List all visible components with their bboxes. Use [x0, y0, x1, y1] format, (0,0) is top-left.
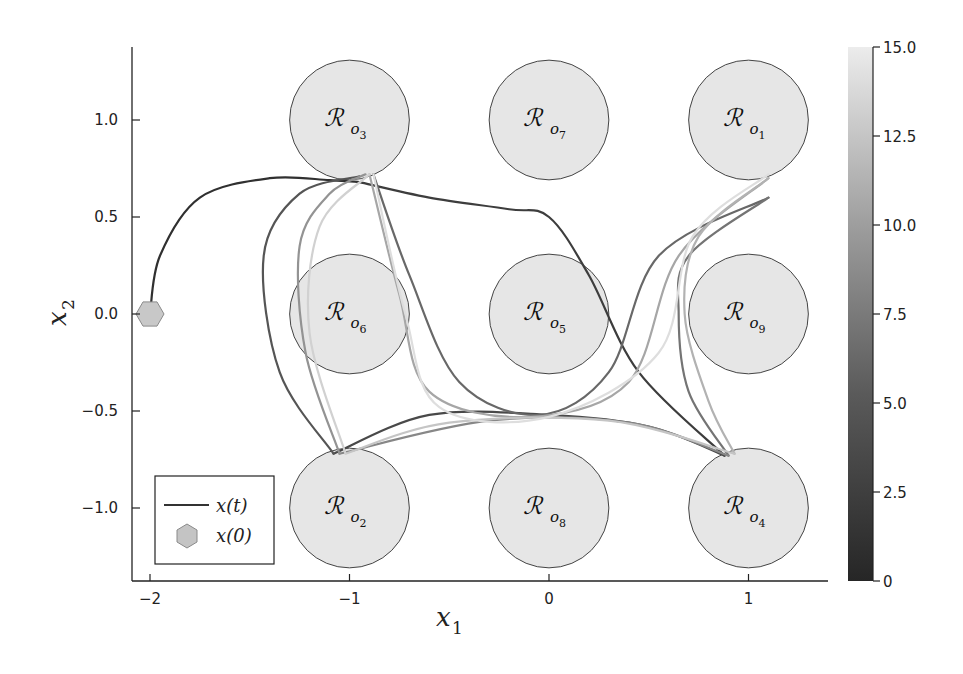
svg-text:o: o [750, 120, 759, 138]
svg-text:o: o [351, 508, 360, 526]
colorbar-tick-label: 7.5 [883, 306, 907, 324]
svg-text:ℛ: ℛ [324, 298, 345, 326]
svg-text:ℛ: ℛ [723, 298, 744, 326]
trajectories-layer [150, 174, 768, 455]
regions-layer: ℛo1ℛo2ℛo3ℛo4ℛo5ℛo6ℛo7ℛo8ℛo9 [290, 60, 809, 568]
svg-text:o: o [351, 120, 360, 138]
y-tick-label: 0.0 [94, 305, 118, 323]
svg-text:6: 6 [360, 323, 367, 336]
svg-text:o: o [550, 120, 559, 138]
svg-text:o: o [750, 508, 759, 526]
svg-text:ℛ: ℛ [523, 104, 544, 132]
svg-text:ℛ: ℛ [723, 492, 744, 520]
colorbar: 15.012.510.07.55.02.50 [848, 39, 916, 591]
legend-label-x0: x(0) [216, 525, 252, 546]
colorbar-tick-label: 2.5 [883, 484, 907, 502]
x-tick-label: −2 [139, 590, 161, 608]
colorbar-tick-label: 12.5 [883, 128, 916, 146]
svg-text:7: 7 [559, 129, 566, 142]
svg-text:2: 2 [58, 299, 78, 310]
svg-text:5: 5 [559, 323, 566, 336]
svg-text:4: 4 [759, 517, 766, 530]
svg-text:o: o [750, 314, 759, 332]
initial-state-hexagon-icon [136, 302, 164, 326]
trajectory-plot: ℛo1ℛo2ℛo3ℛo4ℛo5ℛo6ℛo7ℛo8ℛo9 −2−101 1.00.… [0, 0, 963, 674]
y-axis-label: x 2 [42, 299, 78, 326]
y-tick-label: 0.5 [94, 208, 118, 226]
region-r-o1: ℛo1 [689, 60, 809, 180]
svg-text:o: o [550, 314, 559, 332]
x-axis-label: x 1 [436, 602, 463, 638]
x-tick-label: −1 [338, 590, 360, 608]
x-tick-label: 0 [544, 590, 554, 608]
region-r-o4: ℛo4 [689, 448, 809, 568]
svg-text:ℛ: ℛ [723, 104, 744, 132]
colorbar-tick-label: 0 [883, 573, 893, 591]
x-tick-label: 1 [744, 590, 754, 608]
colorbar-tick-label: 15.0 [883, 39, 916, 57]
y-tick-label: 1.0 [94, 111, 118, 129]
region-r-o2: ℛo2 [290, 448, 410, 568]
svg-text:ℛ: ℛ [324, 104, 345, 132]
y-axis-ticks: 1.00.50.0−0.5−1.0 [82, 111, 140, 517]
svg-text:8: 8 [559, 517, 566, 530]
region-r-o9: ℛo9 [689, 254, 809, 374]
legend-label-xt: x(t) [216, 495, 247, 516]
svg-text:ℛ: ℛ [324, 492, 345, 520]
y-tick-label: −1.0 [82, 499, 118, 517]
svg-text:ℛ: ℛ [523, 492, 544, 520]
svg-text:3: 3 [360, 129, 367, 142]
svg-text:x: x [436, 602, 451, 632]
region-r-o8: ℛo8 [489, 448, 609, 568]
colorbar-tick-label: 10.0 [883, 217, 916, 235]
svg-text:2: 2 [360, 517, 367, 530]
svg-text:1: 1 [759, 129, 766, 142]
region-r-o5: ℛo5 [489, 254, 609, 374]
svg-text:o: o [550, 508, 559, 526]
region-r-o7: ℛo7 [489, 60, 609, 180]
legend: x(t) x(0) [155, 476, 274, 564]
colorbar-tick-label: 5.0 [883, 395, 907, 413]
svg-text:9: 9 [759, 323, 766, 336]
y-tick-label: −0.5 [82, 402, 118, 420]
svg-text:ℛ: ℛ [523, 298, 544, 326]
svg-text:1: 1 [452, 618, 463, 638]
svg-text:o: o [351, 314, 360, 332]
svg-text:x: x [42, 311, 72, 326]
region-r-o3: ℛo3 [290, 60, 410, 180]
